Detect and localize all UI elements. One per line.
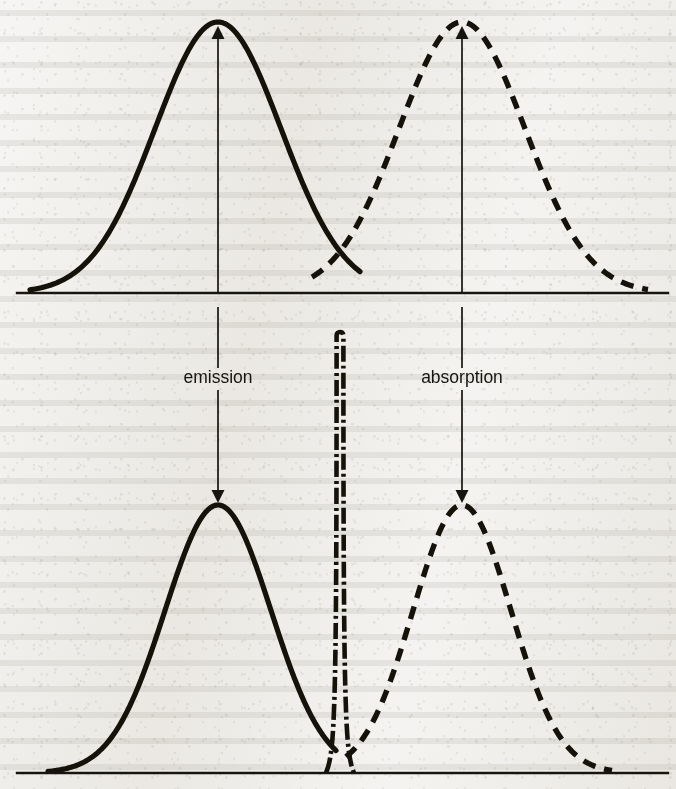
- lower-panel: [17, 332, 668, 773]
- absorption-down-arrow-head: [456, 490, 469, 503]
- band-diagram-plot: [0, 0, 676, 789]
- upper-panel: [17, 22, 668, 293]
- emission-down-arrow-head: [212, 490, 225, 503]
- emission-up-arrow-head: [212, 26, 225, 39]
- absorption-down-arrow: [456, 307, 469, 503]
- figure-canvas: emission absorption: [0, 0, 676, 789]
- upper-absorption-curve: [312, 22, 648, 290]
- emission-up-arrow: [212, 26, 225, 293]
- emission-label: emission: [183, 369, 252, 387]
- upper-emission-curve: [30, 22, 360, 290]
- lower-emission-curve: [48, 505, 336, 771]
- absorption-label: absorption: [421, 369, 503, 387]
- absorption-up-arrow: [456, 26, 469, 293]
- absorption-up-arrow-head: [456, 26, 469, 39]
- emission-down-arrow: [212, 307, 225, 503]
- zero-phonon-line-curve: [326, 332, 354, 773]
- lower-absorption-curve: [346, 505, 612, 771]
- connecting-arrows: [212, 307, 469, 503]
